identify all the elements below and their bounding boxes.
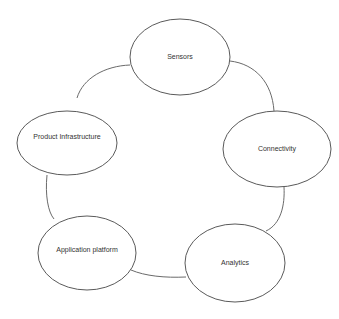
node-label: Sensors <box>167 53 193 60</box>
node-label: Connectivity <box>258 145 297 153</box>
connector-analytics-application-platform <box>131 270 186 277</box>
node-label: Application platform <box>56 246 118 254</box>
cycle-diagram: Sensors Connectivity Analytics Applicati… <box>0 0 339 319</box>
connector-product-infrastructure-sensors <box>77 65 130 98</box>
connector-application-platform-product-infrastructure <box>46 175 54 219</box>
node-product-infrastructure: Product Infrastructure <box>17 111 117 175</box>
node-analytics: Analytics <box>185 224 285 302</box>
connector-connectivity-analytics <box>266 187 284 231</box>
node-label: Product Infrastructure <box>33 133 100 140</box>
node-sensors: Sensors <box>130 19 230 95</box>
connector-sensors-connectivity <box>230 61 274 111</box>
node-label: Analytics <box>221 259 250 267</box>
node-connectivity: Connectivity <box>223 111 331 187</box>
node-application-platform: Application platform <box>38 216 136 290</box>
